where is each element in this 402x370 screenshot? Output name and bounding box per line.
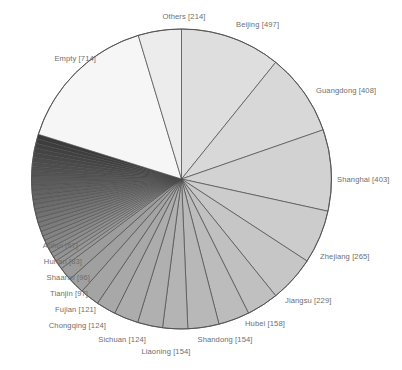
- slice-label-shanghai: Shanghai [403]: [337, 176, 402, 184]
- slice-label-empty: Empty [714]: [16, 55, 96, 63]
- slice-label-jiangsu: Jiangsu [229]: [285, 297, 375, 305]
- slice-label-zhejiang: Zhejiang [265]: [320, 253, 402, 261]
- slice-label-tianjin: Tianjin [97]: [6, 290, 88, 298]
- slice-label-shaanxi: Shaanxi [96]: [2, 274, 90, 282]
- slice-label-others: Others [214]: [149, 13, 219, 21]
- slice-label-shandong: Shandong [154]: [182, 336, 268, 344]
- slice-label-fujian: Fujian [121]: [10, 306, 96, 314]
- slice-label-guangdong: Guangdong [408]: [316, 87, 402, 95]
- slice-label-anhui: Anhui [67]: [2, 242, 78, 250]
- slice-label-sichuan: Sichuan [124]: [60, 336, 146, 344]
- slice-label-liaoning: Liaoning [154]: [123, 348, 209, 356]
- pie-slice-group: [32, 29, 332, 329]
- slice-label-chongqing: Chongqing [124]: [6, 322, 106, 330]
- slice-label-beijing: Beijing [497]: [236, 21, 326, 29]
- pie-chart: Others [214]Beijing [497]Empty [714]Guan…: [0, 0, 402, 370]
- slice-label-hubei: Hubei [158]: [245, 320, 323, 328]
- slice-label-hunan: Hunan [83]: [2, 258, 82, 266]
